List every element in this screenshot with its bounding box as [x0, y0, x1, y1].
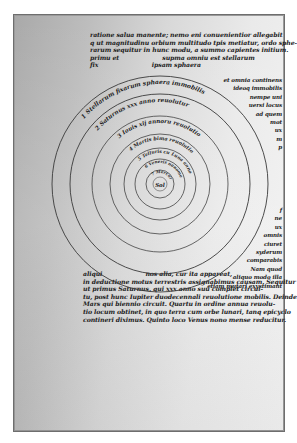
heliocentric-diagram: 1 Stellarum fixarum sphaera immobilis2 S…	[0, 0, 297, 443]
sphere-labels: 1 Stellarum fixarum sphaera immobilis2 S…	[0, 0, 207, 181]
sun-label: Sol	[155, 182, 165, 188]
sphere-label-2: 2 Saturnus xxx anno reuolutur	[93, 97, 190, 132]
